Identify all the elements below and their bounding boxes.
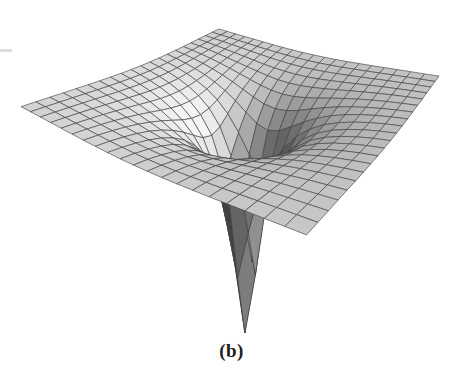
figure-3d-funnel-surface: (b) [0,0,463,375]
figure-label: (b) [0,340,463,362]
surface-plot-canvas [0,0,463,340]
page-margin-artifact-dash [0,49,12,52]
